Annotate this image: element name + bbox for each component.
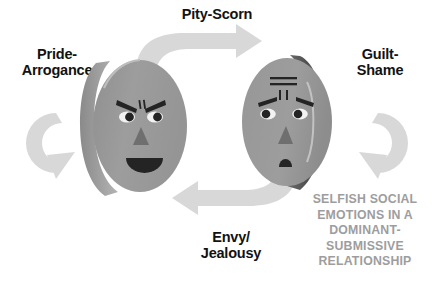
submissive-forehead-line-2: [270, 83, 297, 85]
dominant-right-eye: [147, 111, 163, 122]
faces-layer: [0, 0, 434, 305]
diagram-canvas: Pity-Scorn Pride- Arrogance Guilt- Shame…: [0, 0, 434, 305]
submissive-worry-line-2: [286, 90, 288, 100]
submissive-left-eye: [260, 109, 276, 120]
dominant-left-eye: [119, 111, 135, 122]
submissive-forehead-line-1: [270, 77, 297, 79]
submissive-right-eye: [292, 109, 308, 120]
submissive-face: [242, 55, 332, 190]
submissive-worry-line-1: [279, 90, 281, 100]
dominant-face: [80, 60, 187, 196]
